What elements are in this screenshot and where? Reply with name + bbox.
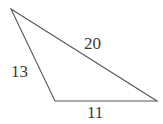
side-label-left: 13 [11,63,28,80]
triangle-figure: 20 13 11 [0,0,163,124]
side-label-top: 20 [84,35,101,52]
side-label-bottom: 11 [87,104,103,121]
triangle-outline-path [11,9,157,101]
